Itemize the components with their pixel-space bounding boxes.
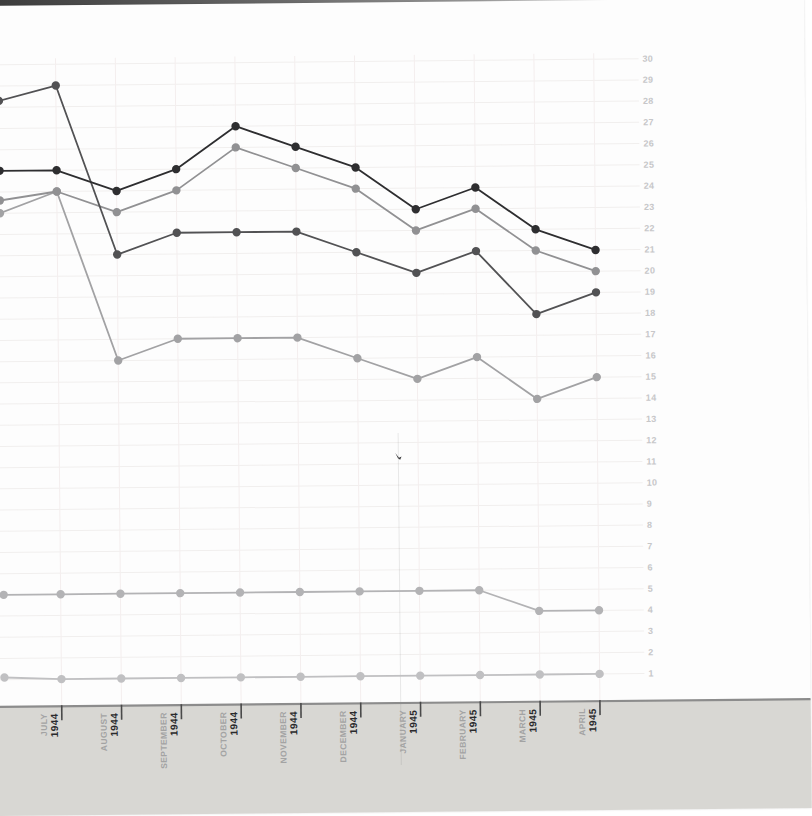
x-year-label: 1945 bbox=[408, 710, 419, 734]
data-point-line-5-pale-gray bbox=[595, 606, 603, 614]
data-point-line-5-pale-gray bbox=[415, 587, 423, 595]
data-point-line-1-black bbox=[52, 166, 60, 174]
h-gridline bbox=[0, 440, 642, 446]
y-axis-label: 15 bbox=[646, 372, 657, 382]
data-point-line-4-light-gray bbox=[114, 356, 122, 364]
data-point-line-3-gray bbox=[172, 186, 180, 194]
y-axis-label: 26 bbox=[643, 138, 654, 148]
data-point-line-5-pale-gray bbox=[535, 607, 543, 615]
y-axis-label: 1 bbox=[648, 668, 653, 678]
x-year-label: 1945 bbox=[527, 709, 538, 733]
y-axis-label: 2 bbox=[648, 647, 653, 657]
data-point-line-2-dark-gray bbox=[52, 81, 60, 89]
x-month-label: NOVEMBER bbox=[278, 711, 289, 763]
data-point-line-1-black bbox=[112, 187, 120, 195]
h-gridline bbox=[0, 567, 643, 573]
data-point-line-2-dark-gray bbox=[412, 269, 420, 277]
data-point-line-5-pale-gray bbox=[355, 587, 363, 595]
data-point-line-6-palest-gray bbox=[595, 670, 603, 678]
x-year-label: 1944 bbox=[168, 712, 179, 736]
data-point-line-1-black bbox=[351, 163, 359, 171]
y-axis-label: 29 bbox=[643, 75, 654, 85]
data-point-line-4-light-gray bbox=[174, 335, 182, 343]
data-point-line-4-light-gray bbox=[0, 209, 4, 217]
data-point-line-3-gray bbox=[471, 204, 479, 212]
data-point-line-4-light-gray bbox=[353, 354, 361, 362]
h-gridline bbox=[0, 334, 641, 340]
data-point-line-1-black bbox=[291, 143, 299, 151]
x-month-label: AUGUST bbox=[99, 712, 109, 751]
data-point-line-5-pale-gray bbox=[296, 588, 304, 596]
x-month-label: APRIL bbox=[577, 708, 587, 736]
data-point-line-6-palest-gray bbox=[57, 675, 65, 683]
y-axis-label: 30 bbox=[642, 54, 653, 64]
y-axis-label: 12 bbox=[646, 435, 657, 445]
y-axis-label: 28 bbox=[643, 96, 654, 106]
h-gridline bbox=[0, 525, 643, 531]
data-point-line-2-dark-gray bbox=[0, 97, 3, 105]
y-axis-label: 21 bbox=[644, 244, 655, 254]
h-gridline bbox=[0, 356, 641, 362]
h-gridline bbox=[0, 504, 643, 510]
y-axis-label: 20 bbox=[645, 266, 656, 276]
data-point-line-3-gray bbox=[532, 246, 540, 254]
data-point-line-3-gray bbox=[352, 184, 360, 192]
y-axis-label: 25 bbox=[644, 160, 655, 170]
data-point-line-6-palest-gray bbox=[416, 671, 424, 679]
h-gridline bbox=[0, 462, 642, 468]
x-month-label: SEPTEMBER bbox=[158, 712, 169, 769]
y-axis-label: 3 bbox=[648, 626, 653, 636]
data-point-line-3-gray bbox=[53, 187, 61, 195]
y-axis-label: 10 bbox=[647, 478, 658, 488]
data-point-line-1-black bbox=[471, 183, 479, 191]
data-point-line-5-pale-gray bbox=[236, 588, 244, 596]
h-gridline bbox=[0, 631, 644, 637]
x-year-label: 1944 bbox=[288, 711, 299, 735]
y-axis-label: 27 bbox=[643, 117, 654, 127]
y-axis-label: 5 bbox=[648, 584, 653, 594]
x-month-label: MARCH bbox=[517, 709, 527, 743]
h-gridline bbox=[0, 377, 642, 383]
data-point-line-1-black bbox=[0, 167, 4, 175]
h-gridline bbox=[0, 144, 639, 150]
h-gridline bbox=[0, 398, 642, 404]
data-point-line-3-gray bbox=[292, 164, 300, 172]
y-axis-label: 6 bbox=[647, 562, 652, 572]
x-month-label: JULY bbox=[39, 713, 49, 736]
y-axis-label: 7 bbox=[647, 541, 652, 551]
data-point-line-3-gray bbox=[113, 208, 121, 216]
data-point-line-6-palest-gray bbox=[117, 674, 125, 682]
h-gridline bbox=[0, 419, 642, 425]
y-axis-label: 13 bbox=[646, 414, 657, 424]
data-point-line-1-black bbox=[531, 225, 539, 233]
data-point-line-6-palest-gray bbox=[536, 670, 544, 678]
data-point-line-4-light-gray bbox=[233, 334, 241, 342]
data-point-line-1-black bbox=[231, 122, 239, 130]
data-point-line-4-light-gray bbox=[533, 395, 541, 403]
data-point-line-2-dark-gray bbox=[532, 310, 540, 318]
h-gridline bbox=[0, 271, 641, 277]
h-gridline bbox=[0, 313, 641, 319]
y-axis-label: 14 bbox=[646, 393, 657, 403]
data-point-line-1-black bbox=[172, 165, 180, 173]
chart-paper: 3029282726252423222120191817161514131211… bbox=[0, 0, 812, 816]
data-point-line-1-black bbox=[412, 205, 420, 213]
data-point-line-2-dark-gray bbox=[352, 248, 360, 256]
x-year-label: 1944 bbox=[49, 713, 60, 737]
data-point-line-4-light-gray bbox=[413, 375, 421, 383]
h-gridline bbox=[0, 546, 643, 552]
data-point-line-3-gray bbox=[0, 196, 4, 204]
data-point-line-2-dark-gray bbox=[113, 250, 121, 258]
data-point-line-3-gray bbox=[412, 226, 420, 234]
y-axis-label: 9 bbox=[647, 499, 652, 509]
y-axis-label: 16 bbox=[645, 350, 656, 360]
h-gridline bbox=[0, 207, 640, 213]
data-point-line-4-light-gray bbox=[293, 333, 301, 341]
x-month-label: FEBRUARY bbox=[457, 709, 467, 759]
data-point-line-6-palest-gray bbox=[177, 674, 185, 682]
y-axis-label: 17 bbox=[645, 329, 656, 339]
data-point-line-2-dark-gray bbox=[173, 229, 181, 237]
y-axis-label: 8 bbox=[647, 520, 652, 530]
data-point-line-5-pale-gray bbox=[176, 589, 184, 597]
y-axis-label: 11 bbox=[646, 456, 656, 466]
